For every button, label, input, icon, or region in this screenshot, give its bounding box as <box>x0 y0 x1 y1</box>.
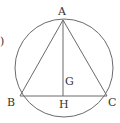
label-h: H <box>59 98 69 111</box>
side-ab <box>20 20 63 96</box>
label-a: A <box>57 5 67 18</box>
geometry-diagram: ) A B C G H <box>0 0 120 123</box>
label-g: G <box>65 75 74 88</box>
label-b: B <box>7 96 15 109</box>
problem-marker: ) <box>0 35 4 48</box>
label-c: C <box>108 96 116 109</box>
